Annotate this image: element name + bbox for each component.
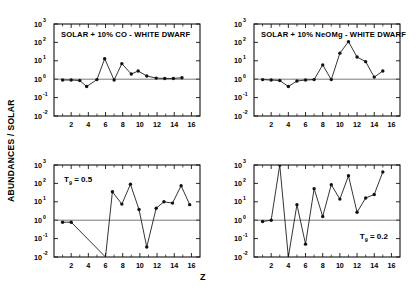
svg-text:10: 10 (234, 253, 242, 262)
svg-text:10: 10 (34, 112, 42, 121)
y-tick-label: 100 (234, 214, 246, 225)
svg-text:2: 2 (43, 177, 46, 183)
x-tick-label: 14 (370, 261, 378, 270)
y-tick-label: 102 (234, 36, 246, 47)
svg-text:0: 0 (43, 214, 46, 220)
svg-text:10: 10 (34, 93, 42, 102)
data-point (171, 201, 174, 204)
data-point (312, 78, 315, 81)
svg-text:-1: -1 (243, 232, 248, 238)
data-point (120, 62, 123, 65)
x-tick-label: 8 (121, 261, 125, 270)
svg-text:0: 0 (243, 214, 246, 220)
y-tick-label: 10-1 (234, 232, 248, 243)
data-point (355, 55, 358, 58)
svg-text:10: 10 (34, 234, 42, 243)
svg-text:1: 1 (243, 195, 246, 201)
y-tick-label: 10-2 (234, 109, 248, 120)
svg-text:10: 10 (34, 253, 42, 262)
y-tick-label: 102 (34, 36, 46, 47)
data-point (103, 57, 106, 60)
data-point (321, 63, 324, 66)
data-point (172, 77, 175, 80)
data-point (338, 51, 341, 54)
x-tick-label: 12 (153, 261, 161, 270)
svg-text:10: 10 (34, 216, 42, 225)
y-tick-label: 100 (34, 214, 46, 225)
svg-text:3: 3 (43, 17, 46, 23)
x-tick-label: 12 (353, 120, 361, 129)
svg-text:10: 10 (34, 56, 42, 65)
data-point (69, 220, 72, 223)
data-point (95, 78, 98, 81)
svg-text:-2: -2 (43, 109, 48, 115)
y-tick-label: 101 (234, 54, 246, 65)
svg-text:10: 10 (34, 179, 42, 188)
y-tick-label: 10-2 (234, 250, 248, 261)
x-tick-label: 14 (170, 120, 178, 129)
x-tick-label: 6 (304, 261, 308, 270)
data-point (304, 242, 307, 245)
panel-title: SOLAR + 10% NeOMg - WHITE DWARF (261, 30, 406, 39)
panel-top-right: 10310210110010-110-2246810121416SOLAR + … (228, 14, 408, 134)
svg-text:0: 0 (243, 73, 246, 79)
panel-annotation: T9 = 0.2 (360, 232, 389, 243)
data-point (69, 78, 72, 81)
y-tick-label: 102 (34, 177, 46, 188)
svg-text:10: 10 (234, 112, 242, 121)
data-point (155, 206, 158, 209)
svg-text:3: 3 (243, 17, 246, 23)
x-tick-label: 16 (387, 120, 395, 129)
svg-text:-1: -1 (43, 232, 48, 238)
y-tick-label: 100 (34, 73, 46, 84)
y-axis-label: ABUNDANCES / SOLAR (4, 96, 18, 206)
data-point (347, 40, 350, 43)
x-tick-label: 10 (336, 120, 344, 129)
y-tick-label: 10-2 (34, 109, 48, 120)
data-point (61, 220, 64, 223)
x-tick-label: 4 (86, 120, 90, 129)
x-tick-label: 2 (269, 261, 273, 270)
y-tick-label: 10-1 (234, 91, 248, 102)
data-point (78, 79, 81, 82)
x-tick-label: 16 (387, 261, 395, 270)
figure-root: ABUNDANCES / SOLAR Z 10310210110010-110-… (0, 0, 418, 293)
data-point (381, 170, 384, 173)
x-tick-label: 14 (370, 120, 378, 129)
data-point (330, 183, 333, 186)
x-tick-label: 8 (321, 120, 325, 129)
data-series (61, 57, 184, 88)
data-point (162, 200, 165, 203)
x-tick-label: 12 (353, 261, 361, 270)
x-tick-label: 2 (269, 120, 273, 129)
data-point (304, 78, 307, 81)
svg-text:3: 3 (243, 158, 246, 164)
data-point (112, 78, 115, 81)
data-point (120, 202, 123, 205)
svg-text:T9 = 0.5: T9 = 0.5 (64, 175, 93, 186)
data-point (381, 69, 384, 72)
svg-text:1: 1 (43, 54, 46, 60)
data-point (137, 208, 140, 211)
svg-text:10: 10 (234, 216, 242, 225)
x-tick-label: 4 (286, 120, 290, 129)
data-point (295, 79, 298, 82)
svg-text:10: 10 (234, 75, 242, 84)
x-tick-label: 12 (153, 120, 161, 129)
x-tick-label: 4 (286, 261, 290, 270)
data-point (61, 78, 64, 81)
x-tick-label: 8 (321, 261, 325, 270)
x-tick-label: 10 (136, 261, 144, 270)
y-tick-label: 10-2 (34, 250, 48, 261)
svg-text:0: 0 (43, 73, 46, 79)
svg-text:10: 10 (234, 20, 242, 29)
panel-bottom-left: 10310210110010-110-2246810121416T9 = 0.5 (28, 155, 208, 275)
data-point (111, 190, 114, 193)
data-point (312, 187, 315, 190)
x-tick-label: 6 (104, 120, 108, 129)
data-point (330, 78, 333, 81)
svg-text:10: 10 (234, 197, 242, 206)
x-tick-label: 6 (304, 120, 308, 129)
data-point (145, 245, 148, 248)
data-polyline (263, 165, 383, 257)
